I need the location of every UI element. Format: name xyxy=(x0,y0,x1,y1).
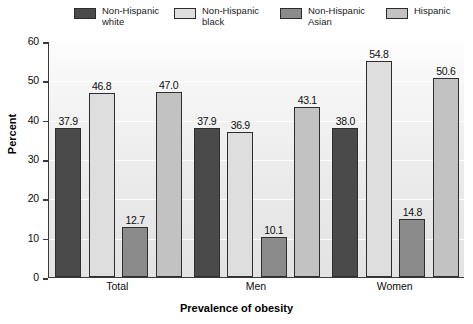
bar: 14.8 xyxy=(399,219,425,277)
bar-value-label: 37.9 xyxy=(58,115,77,127)
x-tick-label: Men xyxy=(246,280,266,292)
y-tick-label: 40 xyxy=(28,114,39,126)
x-tick-label: Women xyxy=(377,280,413,292)
bar: 36.9 xyxy=(227,132,253,277)
bar: 37.9 xyxy=(194,128,220,277)
bar-value-label: 14.8 xyxy=(403,206,422,218)
bar-value-label: 36.9 xyxy=(231,119,250,131)
bar: 43.1 xyxy=(294,107,320,277)
legend-item: Hispanic xyxy=(386,6,450,19)
legend-item: Non-Hispanic Asian xyxy=(280,6,365,27)
y-tick-label: 60 xyxy=(28,35,39,47)
x-tick-label: Total xyxy=(106,280,128,292)
bar: 47.0 xyxy=(156,92,182,277)
y-tick-label: 0 xyxy=(33,271,39,283)
bar-value-label: 43.1 xyxy=(298,94,317,106)
legend-item-label: Non-Hispanic white xyxy=(102,6,159,27)
legend-item-label: Non-Hispanic black xyxy=(202,6,259,27)
legend-swatch-icon xyxy=(174,8,196,19)
legend-item: Non-Hispanic white xyxy=(74,6,159,27)
bar: 54.8 xyxy=(366,61,392,277)
bar: 12.7 xyxy=(122,227,148,277)
y-tick-label: 30 xyxy=(28,153,39,165)
legend-item-label: Hispanic xyxy=(414,6,450,17)
bar-value-label: 37.9 xyxy=(197,115,216,127)
legend-swatch-icon xyxy=(280,8,302,19)
bar-value-label: 12.7 xyxy=(125,214,144,226)
plot-area: 37.946.812.747.037.936.910.143.138.054.8… xyxy=(48,42,464,278)
y-tick-label: 20 xyxy=(28,192,39,204)
x-axis: TotalMenWomen xyxy=(48,280,464,300)
bar-value-label: 38.0 xyxy=(336,115,355,127)
y-tick-label: 10 xyxy=(28,232,39,244)
bar: 46.8 xyxy=(89,93,115,277)
bar-value-label: 47.0 xyxy=(159,79,178,91)
gridline xyxy=(49,81,464,82)
bar: 38.0 xyxy=(332,128,358,277)
legend-swatch-icon xyxy=(386,8,408,19)
bar: 50.6 xyxy=(433,78,459,277)
x-axis-label: Prevalence of obesity xyxy=(0,302,473,314)
bar-value-label: 46.8 xyxy=(92,80,111,92)
legend-item: Non-Hispanic black xyxy=(174,6,259,27)
bar-value-label: 54.8 xyxy=(369,48,388,60)
chart-legend: Non-Hispanic whiteNon-Hispanic blackNon-… xyxy=(0,6,473,36)
bar: 10.1 xyxy=(261,237,287,277)
y-axis-label: Percent xyxy=(6,89,18,179)
legend-swatch-icon xyxy=(74,8,96,19)
legend-item-label: Non-Hispanic Asian xyxy=(308,6,365,27)
bar-value-label: 50.6 xyxy=(436,65,455,77)
bar: 37.9 xyxy=(55,128,81,277)
bar-value-label: 10.1 xyxy=(264,224,283,236)
y-tick-label: 50 xyxy=(28,74,39,86)
